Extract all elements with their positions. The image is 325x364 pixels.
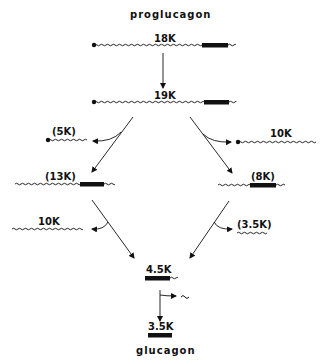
chain-4-5k	[145, 276, 178, 281]
label-3-5k: 3.5K	[148, 322, 173, 332]
arrow-19k-to-13k	[92, 117, 133, 172]
label-3-5k-fragment: (3.5K)	[237, 220, 272, 230]
label-4-5k: 4.5K	[146, 265, 171, 275]
arrow-to-10k-right	[203, 134, 231, 142]
label-18k: 18K	[154, 34, 176, 44]
glucagon-title: glucagon	[136, 346, 196, 356]
tilde-fragment-icon	[181, 296, 189, 299]
chain-10k-left	[12, 228, 83, 230]
glucagon-processing-diagram: proglucagon 18K 19K (5K) 10K (13K) (8K) …	[0, 0, 325, 364]
label-13k: (13K)	[45, 172, 76, 182]
label-5k: (5K)	[52, 127, 76, 137]
arrow-to-10k-left	[92, 222, 108, 229]
label-10k-right: 10K	[270, 129, 292, 139]
label-19k: 19K	[154, 91, 176, 101]
label-10k-left: 10K	[38, 217, 60, 227]
chain-10k-right	[236, 140, 316, 144]
arrow-to-tilde-fragment	[160, 295, 176, 296]
chain-3-5k-fragment	[237, 232, 267, 234]
arrow-8k-to-4-5k	[190, 201, 229, 258]
chain-8k	[218, 183, 285, 188]
proglucagon-title: proglucagon	[130, 10, 212, 20]
chain-3-5k	[148, 333, 172, 338]
label-8k: (8K)	[251, 172, 275, 182]
arrow-19k-to-8k	[190, 117, 232, 173]
chain-13k	[15, 182, 115, 187]
arrow-to-5k	[93, 132, 121, 141]
chain-5k	[46, 138, 87, 142]
diagram-graphics	[0, 0, 325, 364]
arrow-to-3-5k-fragment	[214, 222, 232, 229]
